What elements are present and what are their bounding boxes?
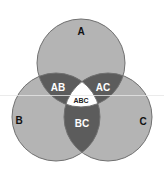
label-abc: ABC [73,97,88,104]
label-b: B [15,115,22,126]
label-ac: AC [96,82,110,93]
horizontal-line-artifact [0,95,164,96]
label-c: C [139,116,146,127]
label-a: A [77,26,84,37]
label-bc: BC [75,118,89,129]
venn-svg: A B C AB AC BC ABC [0,0,164,173]
label-ab: AB [51,82,65,93]
venn-diagram: A B C AB AC BC ABC [0,0,164,173]
